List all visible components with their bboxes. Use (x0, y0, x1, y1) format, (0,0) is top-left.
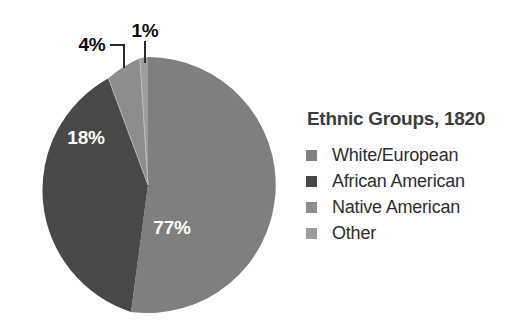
legend-swatch-native-american (306, 202, 317, 213)
legend-item-african-american[interactable]: African American (306, 168, 520, 194)
pie-slice-white-european[interactable] (131, 57, 276, 313)
legend-item-other[interactable]: Other (306, 220, 520, 246)
chart-title: Ethnic Groups, 1820 (307, 108, 520, 130)
legend-list: White/European African American Native A… (306, 142, 520, 246)
slice-value-other: 1% (131, 20, 158, 42)
pie-chart-area: 77% 18% 4% 1% (0, 0, 300, 335)
legend-label-native-american: Native American (332, 198, 460, 216)
legend-swatch-other (306, 228, 317, 239)
legend-label-white-european: White/European (332, 146, 458, 164)
legend: Ethnic Groups, 1820 White/European Afric… (306, 108, 520, 246)
pie-chart-figure: 77% 18% 4% 1% Ethnic Groups, 1820 White/… (0, 0, 524, 335)
slice-value-white-european: 77% (153, 217, 190, 239)
pie-chart-svg (0, 0, 300, 335)
legend-item-native-american[interactable]: Native American (306, 194, 520, 220)
legend-item-white-european[interactable]: White/European (306, 142, 520, 168)
legend-swatch-white-european (306, 150, 317, 161)
slice-value-african-american: 18% (67, 127, 104, 149)
legend-swatch-african-american (306, 176, 317, 187)
legend-label-other: Other (332, 224, 376, 242)
slice-value-native-american: 4% (78, 34, 105, 56)
legend-label-african-american: African American (332, 172, 465, 190)
leader-line-native-american (110, 45, 124, 68)
